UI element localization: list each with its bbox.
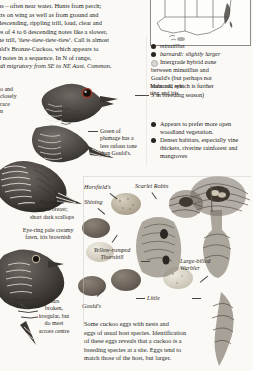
annotation-line: o and <box>0 86 32 93</box>
annotation-line: ring and iris <box>150 90 206 97</box>
panel-divider-top <box>83 176 251 177</box>
account-line: es of 4 to 6 descending notes like a slo… <box>0 28 148 37</box>
annotation-line: plumage has a <box>100 135 152 142</box>
annotation-line: Male: red eye- <box>150 83 206 90</box>
egg-label-goulds: Gould's <box>82 303 101 310</box>
caption-line: eggs of usual host species. Identificati… <box>84 329 224 338</box>
egg-label-horsfields: Horsfield's <box>84 184 111 191</box>
habitat-item-open-woodland: Appears to prefer more open woodland veg… <box>151 120 251 136</box>
habitat-item-dense: Denser habitats, especially vine thicket… <box>151 136 251 160</box>
legend-item-intergrade: Intergrade hybrid zone <box>151 58 251 66</box>
caption-line: match those of the host, but larger. <box>84 354 224 363</box>
label-text: Little <box>147 295 160 301</box>
annotation-line: n <box>0 108 32 115</box>
annotation-line: race <box>0 101 32 108</box>
account-line: he trill, 'tiew-tiew-tiew-tiew'. Call is… <box>0 36 148 45</box>
annotation-line: less rufous tone <box>100 143 152 150</box>
annotation-line: do meet <box>26 320 82 327</box>
legend-label: Intergrade hybrid zone <box>160 58 216 65</box>
legend-item-minutillus: minutillus <box>151 42 251 50</box>
label-text: Thornbill <box>82 254 142 261</box>
egg-label-little: Little <box>147 295 160 302</box>
species-account-text: ns – often near water. Hunts from perch;… <box>0 2 148 71</box>
hollow-dot-icon <box>151 60 158 67</box>
figure-caption: Some cuckoo eggs with nests and eggs of … <box>84 320 224 363</box>
egg-label-yellow-rumped-thornbill: Yellow-rumped Thornbill <box>82 247 142 261</box>
legend-continuation-line: Gould's (but perhaps not <box>151 74 251 82</box>
solid-dot-icon <box>151 44 156 49</box>
account-line: cts on wing as well as from ground and <box>0 11 148 20</box>
guide-page: ns – often near water. Hunts from perch;… <box>0 0 253 371</box>
label-text: Yellow-rumped <box>82 247 142 254</box>
solid-dot-icon <box>151 52 156 57</box>
label-text: Scarlet Robin <box>135 183 168 189</box>
leader-line-little <box>136 298 145 299</box>
account-line: uld's Bronze-Cuckoo, which appears to <box>0 45 148 54</box>
annotation-bars-broken: Bars broken, irregular, but do meet acro… <box>26 298 82 335</box>
egg-label-shining: Shining <box>84 199 103 206</box>
label-text: Large-billed <box>180 258 232 265</box>
habitat-label: Appears to prefer more open woodland veg… <box>160 120 231 135</box>
annotation-line: broken, <box>26 305 82 312</box>
leader-line-little-right <box>192 298 201 299</box>
label-text: Horsfield's <box>84 184 111 190</box>
account-line: 8 notes in a sequence. In N of range, <box>0 54 148 63</box>
annotation-line: irregular, but <box>26 313 82 320</box>
egg-label-large-billed-warbler: Large-billed Warbler <box>180 258 232 272</box>
solid-dot-icon <box>151 122 156 127</box>
annotation-male-eye-ring: Male: red eye- ring and iris <box>150 83 206 98</box>
annotation-line: Bars <box>26 298 82 305</box>
account-line: rdi migratory from SE to NE Aust. Common… <box>0 62 148 71</box>
caption-line: breeding species at a site. Eggs tend to <box>84 346 224 355</box>
legend-continuation-line: between minutillus and <box>151 66 251 74</box>
caption-line: of these eggs reveals that a cuckoo is a <box>84 337 224 346</box>
annotation-line: across centre <box>26 328 82 335</box>
caption-line: Some cuckoo eggs with nests and <box>84 320 224 329</box>
panel-divider-left-upper <box>146 36 147 166</box>
leader-line-green-plumage <box>88 131 98 132</box>
egg-label-scarlet-robin: Scarlet Robin <box>135 183 168 190</box>
leader-line-thornbill-2 <box>141 261 150 262</box>
annotation-line: closely <box>0 93 32 100</box>
annotation-left-clipped: o and closely race n <box>0 86 32 116</box>
panel-divider-vertical <box>83 176 84 326</box>
distribution-map <box>150 0 251 46</box>
annotation-line: Green of <box>100 128 152 135</box>
habitat-notes: Appears to prefer more open woodland veg… <box>151 120 251 160</box>
label-text: Gould's <box>82 303 101 309</box>
legend-item-barnardi: barnardi: slightly larger <box>151 50 251 58</box>
label-text: Shining <box>84 199 103 205</box>
leader-line-male-eye <box>135 95 149 96</box>
label-text: Warbler <box>180 265 232 272</box>
annotation-line: than Gould's. <box>100 150 152 157</box>
annotation-green-plumage: Green of plumage has a less rufous tone … <box>100 128 152 158</box>
account-line: ns – often near water. Hunts from perch; <box>0 2 148 11</box>
legend-label: minutillus <box>160 42 185 49</box>
habitat-label: Denser habitats, especially vine thicket… <box>160 136 238 159</box>
account-line: descending, rippling trill, loud, clear … <box>0 19 148 28</box>
legend-label: barnardi: slightly larger <box>160 50 220 57</box>
